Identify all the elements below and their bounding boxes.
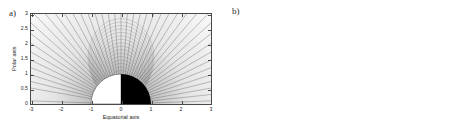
x-tick-a — [182, 14, 183, 17]
y-tick-label-a: 3 — [14, 11, 28, 16]
x-tick-a — [152, 101, 153, 104]
plot-canvas-a — [31, 14, 211, 104]
x-tick-a — [152, 14, 153, 17]
y-tick-a — [31, 30, 34, 31]
x-axis-title-a: Equatorial axis — [103, 114, 140, 120]
y-axis-title-a: Polar axis — [11, 46, 17, 71]
y-tick-label-a: 0.5 — [14, 86, 28, 91]
x-tick-a — [92, 101, 93, 104]
y-tick-a — [208, 15, 211, 16]
y-tick-a — [208, 30, 211, 31]
y-tick-label-a: 2.5 — [14, 26, 28, 31]
x-tick-a — [62, 14, 63, 17]
x-tick-label-a: -3 — [29, 107, 34, 112]
panel-a: a) -3-2-1012300.511.522.53Equatorial axi… — [0, 0, 227, 132]
y-tick-a — [31, 15, 34, 16]
plot-area-a — [30, 13, 212, 105]
y-tick-a — [208, 90, 211, 91]
figure-container: a) -3-2-1012300.511.522.53Equatorial axi… — [0, 0, 454, 132]
x-tick-label-a: -1 — [89, 107, 94, 112]
y-tick-a — [31, 75, 34, 76]
y-tick-a — [208, 45, 211, 46]
y-tick-label-a: 0 — [14, 101, 28, 106]
y-tick-a — [208, 75, 211, 76]
x-tick-label-a: 0 — [120, 107, 123, 112]
x-tick-label-a: 3 — [210, 107, 213, 112]
field-line-plot-a — [31, 14, 211, 104]
x-tick-label-a: 1 — [150, 107, 153, 112]
x-tick-a — [182, 101, 183, 104]
y-tick-a — [31, 60, 34, 61]
x-tick-a — [122, 101, 123, 104]
x-tick-a — [92, 14, 93, 17]
y-tick-label-a: 1 — [14, 71, 28, 76]
x-tick-label-a: 2 — [180, 107, 183, 112]
y-tick-a — [31, 45, 34, 46]
panel-b-label: b) — [232, 7, 240, 16]
x-tick-a — [122, 14, 123, 17]
y-tick-a — [31, 90, 34, 91]
y-tick-a — [208, 60, 211, 61]
panel-b: b) -25-20-15-10-505101520250510152025Equ… — [227, 0, 454, 132]
x-tick-a — [32, 101, 33, 104]
x-tick-a — [62, 101, 63, 104]
x-tick-label-a: -2 — [59, 107, 64, 112]
